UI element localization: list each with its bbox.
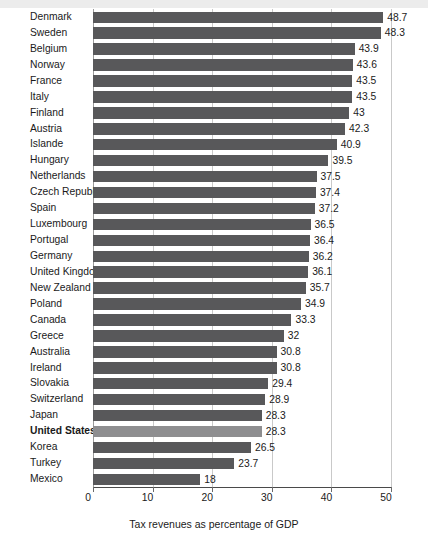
bar-row[interactable]: United Kingdom36.1 bbox=[0, 264, 428, 280]
bar[interactable] bbox=[93, 43, 355, 54]
bar-row[interactable]: United States28.3 bbox=[0, 423, 428, 439]
bar-row[interactable]: Netherlands37.5 bbox=[0, 168, 428, 184]
bar-value-label: 42.3 bbox=[349, 121, 369, 137]
category-label: Italy bbox=[0, 89, 88, 105]
bar-value-label: 26.5 bbox=[255, 440, 275, 456]
bar-row[interactable]: Mexico18 bbox=[0, 471, 428, 487]
bar-row[interactable]: Australia30.8 bbox=[0, 344, 428, 360]
bar-row[interactable]: Canada33.3 bbox=[0, 312, 428, 328]
bar[interactable] bbox=[93, 362, 277, 373]
category-label: United States bbox=[0, 423, 88, 439]
bar-row[interactable]: Turkey23.7 bbox=[0, 455, 428, 471]
bar-value-label: 43.5 bbox=[356, 73, 376, 89]
category-label: Germany bbox=[0, 248, 88, 264]
category-label: Canada bbox=[0, 312, 88, 328]
bar-row[interactable]: Belgium43.9 bbox=[0, 41, 428, 57]
bar-row[interactable]: Switzerland28.9 bbox=[0, 391, 428, 407]
bar[interactable] bbox=[93, 266, 308, 277]
bar-row[interactable]: Sweden48.3 bbox=[0, 25, 428, 41]
category-label: Hungary bbox=[0, 152, 88, 168]
bar-value-label: 37.5 bbox=[321, 169, 341, 185]
bar-value-label: 29.4 bbox=[272, 376, 292, 392]
category-label: Poland bbox=[0, 296, 88, 312]
bar-value-label: 37.4 bbox=[320, 185, 340, 201]
bar-row[interactable]: Denmark48.7 bbox=[0, 9, 428, 25]
bar[interactable] bbox=[93, 426, 262, 437]
category-label: Czech Republic bbox=[0, 184, 88, 200]
bar-row[interactable]: France43.5 bbox=[0, 73, 428, 89]
bar-value-label: 43.5 bbox=[356, 89, 376, 105]
bar-row[interactable]: Islande40.9 bbox=[0, 136, 428, 152]
bar[interactable] bbox=[93, 251, 309, 262]
bar-row[interactable]: Hungary39.5 bbox=[0, 152, 428, 168]
category-label: Portugal bbox=[0, 232, 88, 248]
category-label: Netherlands bbox=[0, 168, 88, 184]
bar[interactable] bbox=[93, 219, 311, 230]
bar[interactable] bbox=[93, 59, 353, 70]
bar[interactable] bbox=[93, 346, 277, 357]
bar[interactable] bbox=[93, 378, 268, 389]
bar[interactable] bbox=[93, 474, 200, 485]
bar-row[interactable]: Italy43.5 bbox=[0, 89, 428, 105]
bar-value-label: 36.1 bbox=[312, 264, 332, 280]
bar-row[interactable]: New Zealand35.7 bbox=[0, 280, 428, 296]
bar-row[interactable]: Czech Republic37.4 bbox=[0, 184, 428, 200]
category-label: Ireland bbox=[0, 360, 88, 376]
bar[interactable] bbox=[93, 203, 315, 214]
bar-row[interactable]: Austria42.3 bbox=[0, 121, 428, 137]
category-label: France bbox=[0, 73, 88, 89]
bar[interactable] bbox=[93, 107, 349, 118]
bar[interactable] bbox=[93, 394, 265, 405]
bar-row[interactable]: Portugal36.4 bbox=[0, 232, 428, 248]
bar[interactable] bbox=[93, 123, 345, 134]
bar-value-label: 43.9 bbox=[359, 41, 379, 57]
bar-value-label: 43.6 bbox=[357, 57, 377, 73]
bar[interactable] bbox=[93, 282, 306, 293]
category-label: Austria bbox=[0, 121, 88, 137]
category-label: United Kingdom bbox=[0, 264, 88, 280]
bar-row[interactable]: Greece32 bbox=[0, 328, 428, 344]
category-label: Finland bbox=[0, 105, 88, 121]
bar[interactable] bbox=[93, 442, 251, 453]
bar-row[interactable]: Japan28.3 bbox=[0, 407, 428, 423]
bar-row[interactable]: Luxembourg36.5 bbox=[0, 216, 428, 232]
bar-row[interactable]: Slovakia29.4 bbox=[0, 375, 428, 391]
bar[interactable] bbox=[93, 75, 352, 86]
bar-row[interactable]: Norway43.6 bbox=[0, 57, 428, 73]
bar-value-label: 43 bbox=[353, 105, 364, 121]
category-label: Turkey bbox=[0, 455, 88, 471]
bar-value-label: 36.2 bbox=[313, 249, 333, 265]
x-axis-label: Tax revenues as percentage of GDP bbox=[0, 518, 428, 530]
tax-revenue-bar-chart: Denmark48.7Sweden48.3Belgium43.9Norway43… bbox=[0, 0, 428, 542]
bar[interactable] bbox=[93, 410, 262, 421]
bar[interactable] bbox=[93, 171, 317, 182]
bar[interactable] bbox=[93, 298, 301, 309]
bar[interactable] bbox=[93, 12, 383, 23]
bar[interactable] bbox=[93, 155, 328, 166]
top-band bbox=[0, 0, 428, 8]
bar-row[interactable]: Spain37.2 bbox=[0, 200, 428, 216]
bar-value-label: 36.4 bbox=[314, 233, 334, 249]
bar-value-label: 23.7 bbox=[238, 456, 258, 472]
bar[interactable] bbox=[93, 139, 337, 150]
category-label: Islande bbox=[0, 136, 88, 152]
bar-row[interactable]: Korea26.5 bbox=[0, 439, 428, 455]
x-axis-line bbox=[93, 487, 391, 488]
bar-row[interactable]: Finland43 bbox=[0, 105, 428, 121]
bar-rows: Denmark48.7Sweden48.3Belgium43.9Norway43… bbox=[0, 9, 428, 487]
bar[interactable] bbox=[93, 187, 316, 198]
bar[interactable] bbox=[93, 330, 284, 341]
category-label: Korea bbox=[0, 439, 88, 455]
bar[interactable] bbox=[93, 458, 234, 469]
bar[interactable] bbox=[93, 235, 310, 246]
category-label: Slovakia bbox=[0, 375, 88, 391]
bar-value-label: 48.3 bbox=[385, 25, 405, 41]
bar-row[interactable]: Germany36.2 bbox=[0, 248, 428, 264]
bar[interactable] bbox=[93, 91, 352, 102]
category-label: Mexico bbox=[0, 471, 88, 487]
bar-row[interactable]: Poland34.9 bbox=[0, 296, 428, 312]
bar[interactable] bbox=[93, 27, 381, 38]
bar-row[interactable]: Ireland30.8 bbox=[0, 360, 428, 376]
x-tick-label: 50 bbox=[380, 492, 391, 503]
bar[interactable] bbox=[93, 314, 291, 325]
